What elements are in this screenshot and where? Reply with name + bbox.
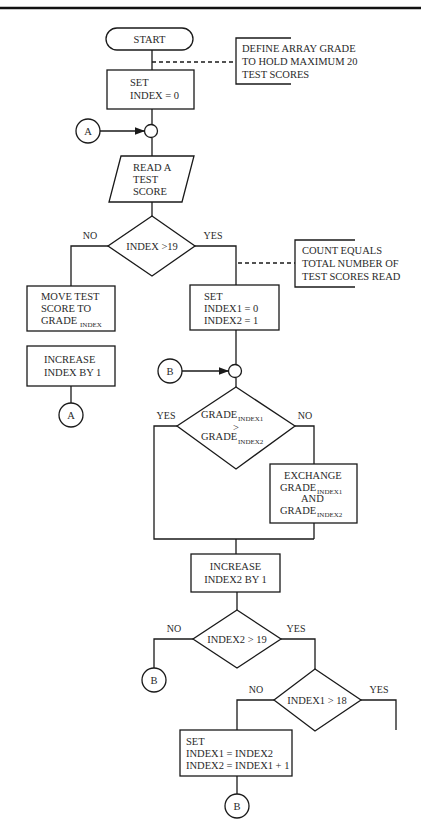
input-text: READ A xyxy=(133,162,172,173)
branch-label-yes: YES xyxy=(204,230,223,241)
branch-label-no: NO xyxy=(83,230,97,241)
connector-a-exit: A xyxy=(59,403,83,427)
process-increase-index: INCREASE INDEX BY 1 xyxy=(27,346,115,386)
process-set-index1-index2: SET INDEX1 = 0 INDEX2 = 1 xyxy=(190,285,279,330)
subscript-text: INDEX2 xyxy=(238,438,264,446)
branch-label-no: NO xyxy=(167,623,181,634)
connector-b-final: B xyxy=(225,794,249,818)
branch-label-yes: YES xyxy=(157,410,176,421)
decision-grade-compare: GRADE INDEX1 > GRADE INDEX2 xyxy=(177,387,295,469)
process-move-score: MOVE TEST SCORE TO GRADE INDEX xyxy=(27,286,115,331)
process-text: INCREASE xyxy=(44,354,95,365)
decision-index1-gt-18: INDEX1 > 18 xyxy=(274,669,361,731)
process-increase-index2: INCREASE INDEX2 BY 1 xyxy=(191,554,280,592)
flow-line-no xyxy=(71,246,108,286)
annotation-text: DEFINE ARRAY GRADE xyxy=(242,43,356,54)
annotation-text: TEST SCORES READ xyxy=(302,271,401,282)
input-text: TEST xyxy=(133,174,159,185)
input-read-score: READ A TEST SCORE xyxy=(109,156,194,202)
junction-point xyxy=(145,125,158,138)
annotation-text: TEST SCORES xyxy=(242,69,309,80)
flow-line-no xyxy=(154,639,193,668)
flow-line-yes xyxy=(361,700,396,730)
decision-text: INDEX >19 xyxy=(126,241,178,252)
connector-b-entry: B xyxy=(158,359,182,383)
annotation-text: TOTAL NUMBER OF xyxy=(302,258,399,269)
decision-index2-gt-19: INDEX2 > 19 xyxy=(193,610,281,668)
connector-b-exit: B xyxy=(142,668,166,692)
flow-line-yes xyxy=(195,246,236,285)
branch-label-no: NO xyxy=(298,410,312,421)
branch-label-no: NO xyxy=(249,684,263,695)
process-text: INDEX BY 1 xyxy=(44,367,101,378)
process-text: EXCHANGE xyxy=(284,470,342,481)
subscript-text: INDEX2 xyxy=(317,511,343,519)
flow-line-no xyxy=(237,700,274,730)
flowchart: START DEFINE ARRAY GRADE TO HOLD MAXIMUM… xyxy=(0,0,421,832)
connector-label: B xyxy=(150,675,157,686)
process-text: INCREASE xyxy=(210,561,261,572)
start-terminal: START xyxy=(106,28,193,50)
annotation-define-array: DEFINE ARRAY GRADE TO HOLD MAXIMUM 20 TE… xyxy=(236,38,358,84)
annotation-text: TO HOLD MAXIMUM 20 xyxy=(242,56,358,67)
decision-text: GRADE xyxy=(201,431,237,442)
branch-label-yes: YES xyxy=(287,623,306,634)
process-text: GRADE xyxy=(280,482,316,493)
connector-label: B xyxy=(233,801,240,812)
decision-text: INDEX2 > 19 xyxy=(207,634,267,645)
process-text: GRADE xyxy=(280,505,316,516)
junction-point xyxy=(229,365,242,378)
decision-index-gt-19: INDEX >19 xyxy=(108,216,195,276)
process-text: INDEX2 = INDEX1 + 1 xyxy=(186,760,289,771)
subscript-text: INDEX xyxy=(80,321,102,329)
process-text: MOVE TEST xyxy=(41,291,100,302)
connector-label: B xyxy=(166,366,173,377)
process-text: INDEX1 = 0 xyxy=(204,303,258,314)
process-set-index: SET INDEX = 0 xyxy=(107,70,194,109)
process-text: SCORE TO xyxy=(41,303,92,314)
process-text: SET xyxy=(130,77,149,88)
branch-label-yes: YES xyxy=(370,684,389,695)
process-text: SET xyxy=(204,291,223,302)
input-text: SCORE xyxy=(133,186,167,197)
annotation-count-equals: COUNT EQUALS TOTAL NUMBER OF TEST SCORES… xyxy=(295,240,401,287)
connector-label: A xyxy=(84,126,92,137)
process-text: INDEX1 = INDEX2 xyxy=(186,748,273,759)
connector-a-entry: A xyxy=(76,119,100,143)
process-text: GRADE xyxy=(41,315,77,326)
process-text: INDEX = 0 xyxy=(130,90,179,101)
process-text: SET xyxy=(186,736,205,747)
process-text: INDEX2 = 1 xyxy=(204,315,258,326)
connector-label: A xyxy=(67,410,75,421)
process-text: INDEX2 BY 1 xyxy=(204,574,267,585)
flow-line-no xyxy=(295,426,314,464)
process-exchange: EXCHANGE GRADE INDEX1 AND GRADE INDEX2 xyxy=(270,464,357,523)
annotation-text: COUNT EQUALS xyxy=(302,245,382,256)
process-text: AND xyxy=(301,493,324,504)
decision-text: INDEX1 > 18 xyxy=(287,695,347,706)
process-set-final: SET INDEX1 = INDEX2 INDEX2 = INDEX1 + 1 xyxy=(180,730,292,776)
subscript-text: INDEX1 xyxy=(238,415,264,423)
flow-line-yes xyxy=(281,639,315,669)
start-label: START xyxy=(134,34,166,45)
decision-text: GRADE xyxy=(201,409,237,420)
